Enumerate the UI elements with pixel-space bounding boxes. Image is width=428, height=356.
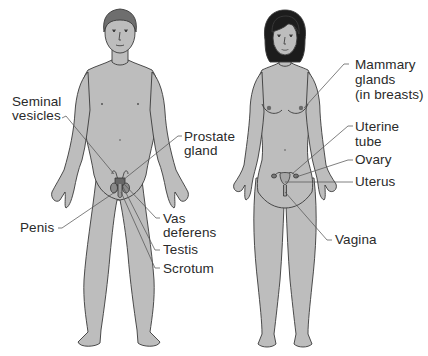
label-vas-deferens: Vas deferens <box>163 212 216 240</box>
label-vagina: Vagina <box>335 233 377 247</box>
label-testis: Testis <box>163 243 198 257</box>
male-figure <box>52 9 189 346</box>
label-scrotum: Scrotum <box>163 262 214 276</box>
label-mammary-glands: Mammary glands (in breasts) <box>355 57 424 102</box>
reproductive-anatomy-diagram: Seminal vesicles Prostate gland Penis Va… <box>0 0 428 356</box>
label-ovary: Ovary <box>355 153 392 167</box>
label-seminal-vesicles: Seminal vesicles <box>12 95 61 123</box>
label-penis: Penis <box>20 221 54 235</box>
label-uterine-tube: Uterine tube <box>355 119 399 149</box>
female-figure <box>234 10 337 347</box>
label-prostate-gland: Prostate gland <box>184 130 235 158</box>
label-uterus: Uterus <box>355 175 395 189</box>
